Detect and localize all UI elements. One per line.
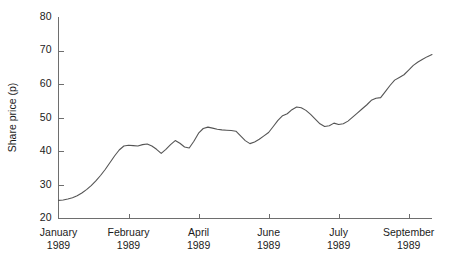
x-tick-labels: January1989February1989April1989June1989… <box>40 226 435 251</box>
share-price-line-chart: 20304050607080 Share price (p) January19… <box>0 0 467 270</box>
x-tick-label: April1989 <box>187 226 211 251</box>
y-tick-labels: 20304050607080 <box>40 10 52 224</box>
x-tick-label: July1989 <box>327 226 351 251</box>
x-tick-marks <box>130 214 410 219</box>
y-tick-marks <box>59 52 64 186</box>
y-axis-group: 20304050607080 Share price (p) <box>6 10 64 224</box>
y-tick-label: 20 <box>40 211 52 223</box>
y-tick-label: 80 <box>40 10 52 22</box>
x-tick-label: January1989 <box>40 226 78 251</box>
y-tick-label: 40 <box>40 144 52 156</box>
y-tick-label: 50 <box>40 111 52 123</box>
x-axis-group: January1989February1989April1989June1989… <box>40 214 435 252</box>
plot-area <box>59 55 433 201</box>
x-tick-label: June1989 <box>257 226 281 251</box>
y-tick-label: 60 <box>40 77 52 89</box>
x-tick-label: February1989 <box>108 226 151 251</box>
x-tick-label: September1989 <box>383 226 435 251</box>
series-line-share-price <box>59 55 433 201</box>
y-tick-label: 70 <box>40 43 52 55</box>
y-tick-label: 30 <box>40 178 52 190</box>
y-axis-title: Share price (p) <box>6 83 18 152</box>
chart-figure: 20304050607080 Share price (p) January19… <box>0 0 467 270</box>
